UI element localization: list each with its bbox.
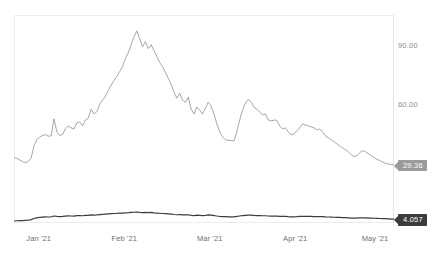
- y-axis-tick-60: 60.00: [398, 100, 418, 109]
- x-axis-tick-mar: Mar '21: [197, 234, 222, 243]
- gray-series-value-text: 29.36: [403, 161, 423, 170]
- gray-series-value-badge: 29.36: [398, 160, 427, 172]
- x-axis-tick-may: May '21: [362, 234, 389, 243]
- x-axis-tick-jan: Jan '21: [26, 234, 51, 243]
- y-axis-tick-90: 90.00: [398, 41, 418, 50]
- x-axis-tick-feb: Feb '21: [111, 234, 136, 243]
- plot-lines: [14, 15, 394, 223]
- dark-series-value-text: 4.057: [403, 215, 423, 224]
- dark-series-line: [14, 212, 394, 221]
- dark-series-value-badge: 4.057: [398, 214, 427, 226]
- badge-pointer-icon: [394, 162, 398, 170]
- gray-series-line: [14, 31, 394, 165]
- x-axis-tick-apr: Apr '21: [283, 234, 307, 243]
- stock-chart: 90.00 60.00 30.00 Jan '21 Feb '21 Mar '2…: [0, 0, 443, 265]
- badge-pointer-icon: [394, 216, 398, 224]
